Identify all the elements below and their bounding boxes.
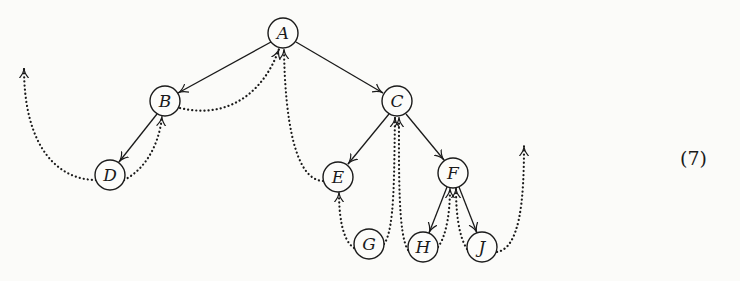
link-a-b [178, 42, 271, 93]
threaded-binary-tree-diagram: A B C D E F G H J [0, 0, 740, 281]
node-b: B [150, 86, 180, 116]
thread-e-a [284, 49, 323, 181]
thread-h-f [438, 188, 450, 247]
node-a: A [268, 18, 298, 48]
thread-b-a [180, 49, 279, 111]
svg-text:D: D [102, 165, 117, 185]
svg-text:G: G [362, 234, 376, 254]
svg-text:C: C [390, 91, 403, 111]
thread-j-head-right [497, 146, 524, 252]
thread-g-e [339, 192, 354, 248]
child-links [119, 42, 477, 233]
node-j: J [467, 232, 497, 262]
link-a-c [296, 42, 383, 93]
link-f-j [459, 187, 477, 233]
equation-number: (7) [680, 147, 707, 169]
svg-text:F: F [446, 163, 460, 183]
thread-h-c [399, 117, 408, 250]
thread-g-c [384, 117, 395, 244]
svg-text:B: B [158, 91, 172, 111]
thread-d-head-left [24, 68, 96, 180]
node-h: H [408, 232, 438, 262]
node-d: D [95, 160, 125, 190]
thread-j-f [456, 188, 467, 249]
thread-links [24, 49, 524, 252]
link-f-h [429, 187, 447, 233]
node-c: C [382, 86, 412, 116]
svg-text:E: E [331, 167, 345, 187]
svg-text:H: H [415, 237, 432, 257]
svg-text:A: A [275, 23, 289, 43]
link-c-e [348, 114, 389, 164]
tree-nodes: A B C D E F G H J [95, 18, 497, 262]
node-f: F [438, 158, 468, 188]
link-c-f [406, 114, 444, 160]
node-e: E [323, 162, 353, 192]
node-g: G [354, 229, 384, 259]
link-b-d [119, 114, 157, 162]
